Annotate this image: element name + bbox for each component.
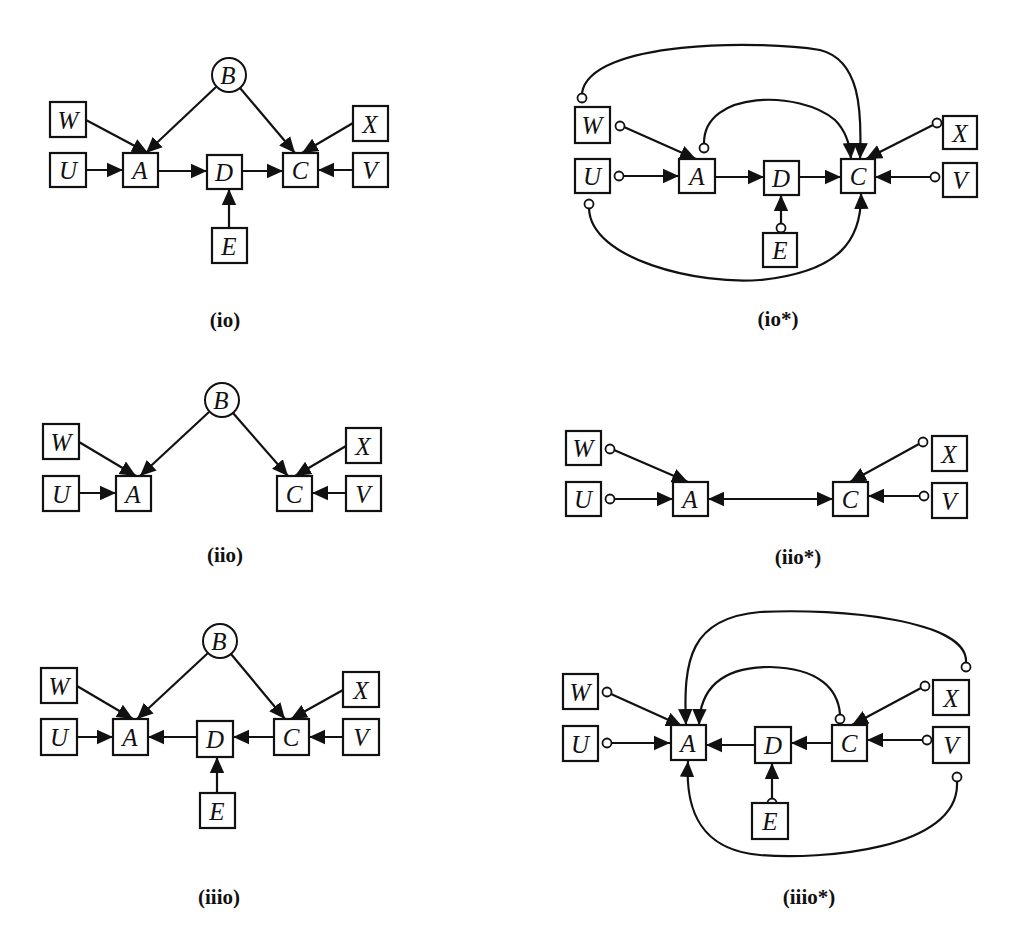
node-u: U	[575, 159, 610, 193]
node-u: U	[43, 476, 79, 511]
node-label: U	[574, 486, 594, 513]
node-label: X	[942, 685, 960, 712]
node-label: A	[123, 481, 141, 508]
node-v: V	[353, 153, 388, 187]
edge-w-to-a	[614, 450, 688, 482]
panel-iiio-star: W U A D C X V E (iiio*)	[563, 611, 971, 909]
edge-w-to-a	[611, 694, 682, 726]
node-label: D	[205, 726, 224, 753]
node-label: W	[49, 673, 72, 700]
node-label: D	[771, 165, 790, 192]
edge-a-to-c-curved	[704, 100, 851, 159]
node-e: E	[200, 793, 235, 828]
node-e: E	[763, 233, 797, 267]
panel-iio-star: W U A C X V (iio*)	[566, 431, 967, 569]
node-v: V	[932, 483, 967, 518]
endpoint-circle	[953, 773, 962, 782]
node-d: D	[764, 161, 799, 195]
node-label: U	[50, 724, 70, 751]
node-c: C	[832, 725, 867, 761]
edge-u-to-c-curved	[589, 193, 861, 281]
node-label: W	[582, 112, 605, 139]
endpoint-circle	[777, 224, 786, 233]
panel-io-star: W U A D C X V E (io*)	[575, 45, 977, 331]
node-x: X	[346, 428, 381, 463]
node-a: A	[679, 159, 715, 193]
node-c: C	[833, 482, 868, 516]
node-label: X	[940, 441, 958, 468]
edge-b-to-a	[140, 412, 209, 476]
node-x: X	[933, 680, 969, 715]
node-b: B	[203, 624, 237, 658]
edge-w-to-a	[86, 120, 148, 153]
node-e: E	[212, 228, 247, 263]
node-v: V	[346, 476, 381, 511]
node-label: A	[130, 157, 148, 184]
edge-w-to-a	[79, 442, 136, 476]
node-label: D	[214, 159, 233, 186]
node-w: W	[41, 668, 77, 703]
node-d: D	[197, 721, 233, 757]
node-u: U	[566, 482, 601, 516]
endpoint-circle	[606, 495, 615, 504]
edge-w-to-a	[77, 686, 133, 719]
panel-iio: B W U A C X V (iio)	[43, 383, 381, 567]
endpoint-circle	[606, 445, 615, 454]
node-b: B	[205, 383, 239, 417]
edge-b-to-c	[240, 88, 295, 153]
edge-b-to-c	[231, 654, 285, 719]
endpoint-circle	[920, 492, 929, 501]
node-label: E	[208, 798, 224, 825]
node-c: C	[283, 153, 318, 187]
node-label: A	[678, 730, 696, 757]
panel-label: (iiio*)	[783, 885, 836, 909]
node-a: A	[113, 719, 148, 755]
node-e: E	[752, 803, 788, 839]
endpoint-circle	[603, 688, 612, 697]
node-label: A	[680, 486, 698, 513]
node-v: V	[943, 163, 977, 197]
node-label: W	[570, 679, 593, 706]
edge-x-to-c	[850, 444, 919, 482]
node-d: D	[755, 727, 791, 763]
edge-b-to-a	[137, 653, 208, 719]
node-label: C	[286, 481, 303, 508]
node-label: W	[51, 429, 74, 456]
panel-label: (io)	[210, 308, 240, 332]
node-label: E	[220, 233, 236, 260]
endpoint-circle	[933, 119, 942, 128]
node-label: B	[213, 387, 228, 414]
node-d: D	[207, 155, 242, 189]
node-label: X	[951, 120, 969, 147]
node-label: X	[361, 111, 379, 138]
node-x: X	[943, 116, 977, 149]
endpoint-circle	[616, 122, 625, 131]
edge-b-to-a	[146, 87, 216, 153]
node-label: C	[292, 157, 309, 184]
node-a: A	[116, 476, 151, 511]
node-label: X	[352, 677, 370, 704]
endpoint-circle	[923, 736, 932, 745]
endpoint-circle	[931, 173, 940, 182]
node-c: C	[274, 719, 309, 755]
node-w: W	[43, 424, 79, 459]
edge-w-to-a	[624, 127, 696, 159]
node-label: C	[850, 163, 867, 190]
panel-io: B W U A D C X V	[50, 58, 388, 332]
node-label: C	[841, 730, 858, 757]
node-label: A	[687, 163, 705, 190]
node-x: X	[353, 106, 388, 141]
endpoint-circle	[615, 172, 624, 181]
node-w: W	[563, 674, 598, 709]
node-c: C	[841, 159, 875, 193]
endpoint-circle	[919, 438, 928, 447]
endpoint-circle	[578, 94, 587, 103]
node-v: V	[933, 727, 969, 763]
edge-b-to-c	[233, 413, 288, 476]
node-a: A	[673, 482, 708, 516]
node-c: C	[277, 476, 312, 511]
node-w: W	[575, 107, 610, 143]
panel-iiio: B W U A D C X V	[41, 624, 379, 909]
edge-v-to-a-curved	[688, 761, 957, 856]
node-u: U	[50, 153, 86, 187]
